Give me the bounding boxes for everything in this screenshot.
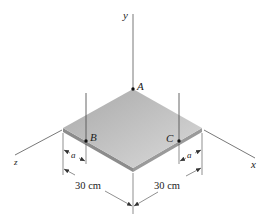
x-axis-label: x (250, 158, 256, 170)
plate-diagram: y x z A B C a a 30 cm 30 cm (0, 0, 271, 221)
diagram-canvas: y x z A B C a a 30 cm 30 cm (0, 0, 271, 221)
z-axis-label: z (13, 157, 18, 167)
label-B: B (90, 131, 97, 143)
dim-30cm-right-label: 30 cm (154, 180, 180, 191)
y-axis-label: y (122, 9, 128, 21)
plate-top (63, 89, 202, 168)
label-C: C (166, 132, 174, 144)
plate (63, 89, 202, 172)
dim-a-right-label: a (187, 150, 192, 160)
label-A: A (136, 80, 144, 92)
point-B (84, 139, 87, 142)
point-C (177, 139, 180, 142)
dim-30cm-left-label: 30 cm (75, 180, 101, 191)
x-axis (204, 130, 255, 158)
z-axis (15, 130, 62, 155)
dim-a-left-label: a (71, 150, 76, 160)
point-A (131, 87, 134, 90)
